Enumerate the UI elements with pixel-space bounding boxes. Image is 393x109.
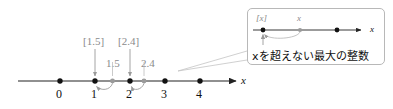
floor-curve-2point4 (132, 84, 145, 90)
point-2point4 (142, 79, 147, 84)
point-1 (92, 78, 97, 83)
diagram-vectors (0, 0, 393, 109)
point-0 (57, 78, 62, 83)
mini-point-x (298, 28, 302, 32)
floor-curve-1point5 (97, 84, 113, 90)
mini-point-floor-x (261, 28, 266, 33)
point-4 (197, 78, 202, 83)
figure-canvas: 0 1 2 3 4 x [1.5] [2.4] 1.5 2.4 [x] x x … (0, 0, 393, 109)
mini-floor-curve (265, 32, 301, 38)
point-2 (127, 78, 132, 83)
point-3 (162, 78, 167, 83)
mini-point-next-integer (335, 28, 340, 33)
callout-leader-line-upper (178, 51, 247, 71)
callout-leader-line-lower (178, 60, 247, 71)
point-1point5 (110, 79, 115, 84)
